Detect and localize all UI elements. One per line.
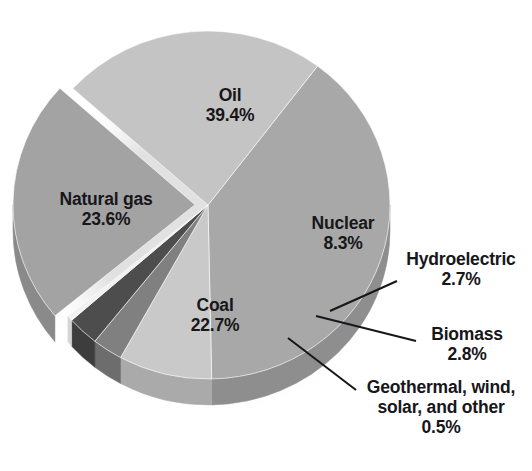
callout-label-geothermal-name: Geothermal, wind, — [352, 378, 530, 398]
pie-chart-figure: Oil 39.4%Nuclear 8.3%Hydroelectric 2.7%B… — [0, 0, 532, 471]
callout-label-biomass-value: 2.8% — [418, 345, 516, 365]
callout-label-geothermal-value: 0.5% — [352, 418, 530, 438]
callout-label-biomass-name: Biomass — [418, 325, 516, 345]
callout-label-hydroelectric: Hydroelectric 2.7% — [396, 250, 526, 290]
callout-label-hydroelectric-value: 2.7% — [396, 270, 526, 290]
callout-label-hydroelectric-name: Hydroelectric — [396, 250, 526, 270]
callout-label-biomass: Biomass 2.8% — [418, 325, 516, 365]
pie-slice-side-geothermal — [68, 316, 72, 346]
callout-label-geothermal-name-2: solar, and other — [352, 398, 530, 418]
callout-label-geothermal: Geothermal, wind, solar, and other 0.5% — [352, 378, 530, 438]
